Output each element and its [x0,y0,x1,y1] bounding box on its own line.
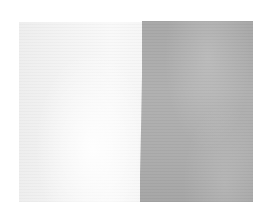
gray-fabric-panel [140,21,253,202]
photo-scene [0,0,263,222]
light-fabric-panel [19,22,142,202]
